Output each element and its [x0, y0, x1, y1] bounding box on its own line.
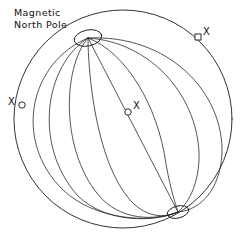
- meridian-line: [49, 38, 178, 219]
- marker-center-circle[interactable]: [125, 109, 131, 115]
- meridian-line: [69, 38, 178, 217]
- meridian-line: [88, 38, 222, 212]
- marker-right-square[interactable]: [195, 34, 201, 40]
- magnetic-north-pole-caption: Magnetic North Pole: [14, 7, 67, 31]
- magnetic-field-diagram: Magnetic North Pole X X X: [0, 0, 246, 240]
- marker-label-left: X: [8, 96, 15, 109]
- marker-label-right: X: [203, 26, 210, 39]
- magnetic-axis-line: [88, 38, 178, 212]
- meridian-lines: [33, 38, 222, 219]
- meridian-line: [88, 38, 199, 212]
- marker-label-center: X: [133, 100, 140, 113]
- marker-left-circle[interactable]: [19, 102, 25, 108]
- meridian-line: [33, 38, 178, 218]
- globe-outline: [14, 10, 232, 228]
